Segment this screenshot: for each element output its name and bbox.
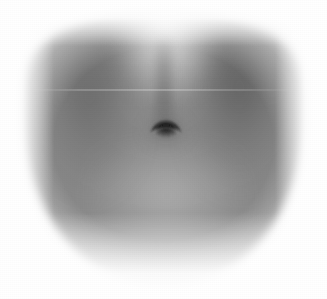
- film-grain-overlay: [0, 0, 327, 299]
- image-canvas: [0, 0, 327, 299]
